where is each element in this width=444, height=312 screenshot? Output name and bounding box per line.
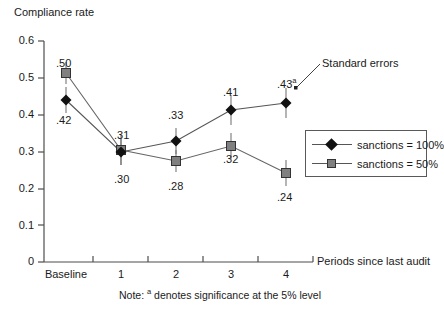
data-label-30: .30 [114,173,129,185]
standard-errors-pointer [294,64,320,90]
standard-errors-annotation: Standard errors [322,57,398,69]
y-axis-ticks [38,41,44,262]
data-label-28: .28 [168,180,183,192]
y-tick-label: 0.1 [8,219,34,231]
y-tick-label: 0.6 [8,34,34,46]
legend-item-sanctions-50: sanctions = 50% [312,155,438,173]
y-tick-label: 0 [8,255,34,267]
x-tick-label-1: 1 [101,268,141,280]
figure-note: Note: a denotes significance at the 5% l… [0,287,440,301]
legend-swatch-diamond [312,138,352,152]
error-bars-sanctions-50 [66,62,286,186]
x-tick-label-3: 3 [211,268,251,280]
data-label-43-value: .43 [277,78,292,90]
legend-item-sanctions-100: sanctions = 100% [312,136,444,154]
markers-sanctions-50 [62,69,291,178]
y-tick-label: 0.5 [8,71,34,83]
y-tick-label: 0.4 [8,108,34,120]
data-label-43: .43a [277,76,296,90]
significance-marker: a [292,76,296,85]
x-tick-label-4: 4 [266,268,306,280]
x-tick-label-2: 2 [156,268,196,280]
x-axis-ticks [93,256,313,262]
data-label-33: .33 [168,109,183,121]
note-prefix: Note: [119,289,147,301]
y-axis-title: Compliance rate [14,6,94,18]
data-label-31: .31 [114,129,129,141]
data-label-42: .42 [56,114,71,126]
y-tick-label: 0.3 [8,145,34,157]
y-tick-label: 0.2 [8,182,34,194]
legend-label-sanctions-100: sanctions = 100% [357,139,444,151]
legend-swatch-square [312,157,352,171]
x-axis-title: Periods since last audit [317,255,430,267]
x-tick-label-baseline: Baseline [26,268,106,280]
legend-label-sanctions-50: sanctions = 50% [357,158,438,170]
legend: sanctions = 100% sanctions = 50% [305,130,427,177]
data-label-24: .24 [277,191,292,203]
data-label-41: .41 [223,86,238,98]
data-label-32: .32 [223,153,238,165]
data-label-50: .50 [56,57,71,69]
error-bars-sanctions-100 [66,87,286,165]
note-suffix: denotes significance at the 5% level [151,289,321,301]
